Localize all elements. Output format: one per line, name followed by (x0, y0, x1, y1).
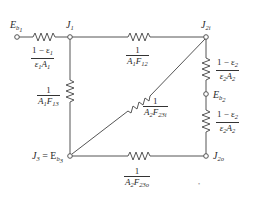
node-j2i (204, 35, 209, 40)
resistance-space23o: 1 A2F23o (124, 166, 150, 190)
node-j3 (68, 154, 73, 159)
resistance-space12: 1 A1F12 (126, 45, 149, 69)
label-j1: J1 (66, 20, 74, 33)
resistor-space23o (128, 152, 150, 160)
resistor-surface1 (33, 33, 55, 41)
resistance-space23i: 1 A2F23i (143, 96, 168, 120)
node-eb2 (204, 92, 209, 97)
node-j2o (204, 154, 209, 159)
node-eb1 (15, 35, 20, 40)
resistance-surface2-lower: 1 − ε2 ε2A2 (216, 109, 239, 136)
resistor-surface2-upper (202, 58, 210, 80)
resistor-space13 (66, 80, 74, 102)
resistor-space12 (128, 33, 150, 41)
node-j1 (68, 35, 73, 40)
resistance-space13: 1 A1F13 (37, 85, 60, 109)
label-j2o: J2o (213, 151, 224, 164)
label-eb2: Eb2 (213, 90, 226, 105)
resistance-surface2-upper: 1 − ε2 ε2A2 (216, 57, 239, 84)
label-j2i: J2i (201, 20, 211, 33)
label-eb1: Eb1 (10, 20, 23, 35)
label-j3: J3 = Eb3 (32, 151, 63, 166)
resistor-surface2-lower (202, 110, 210, 132)
stray-mark: • (198, 181, 200, 187)
resistance-surface1: 1 − ε1 ε1A1 (31, 45, 54, 72)
